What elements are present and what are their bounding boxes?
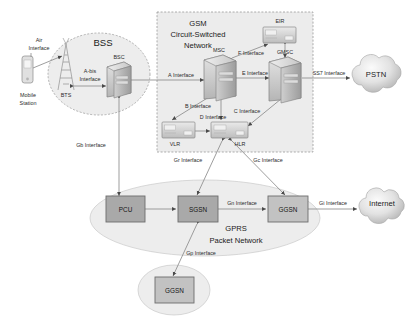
zone-label-gprs-line2: Packet Network	[188, 236, 284, 245]
interface-label-b: B Interface	[175, 103, 221, 110]
node-label-pcu: PCU	[106, 196, 145, 222]
node-label-bts: BTS	[54, 92, 78, 99]
node-label-gmsc: GMSC	[270, 49, 300, 56]
interface-label-gc: Gc Interface	[245, 157, 291, 164]
zone-label-gsm-line1: GSM	[162, 19, 234, 28]
database-box-icon	[162, 122, 195, 138]
node-label-hlr: HLR	[228, 141, 252, 148]
zone-label-gsm-line2: Circuit-Switched	[156, 30, 240, 39]
interface-label-f: F Interface	[228, 50, 274, 57]
interface-label-d: D Interface	[190, 114, 236, 121]
interface-label-gb: Gb Interface	[68, 142, 114, 149]
interface-label-gr: Gr Interface	[165, 157, 211, 164]
interface-label-gn: Gn Interface	[219, 200, 265, 207]
node-label-mobile-station-line1: Mobile	[6, 92, 50, 99]
diagram-canvas: BSS GSM Circuit-Switched Network GPRS Pa…	[0, 0, 413, 319]
interface-label-gp: Gp Interface	[178, 250, 224, 257]
node-label-internet: Internet	[358, 199, 406, 208]
node-label-ggsn: GGSN	[268, 196, 308, 222]
interface-label-air-line1: Air	[22, 37, 56, 44]
database-box-icon	[211, 122, 248, 138]
interface-label-e: E Interface	[232, 70, 278, 77]
node-label-mobile-station-line2: Station	[6, 100, 50, 107]
node-label-bsc: BSC	[108, 54, 130, 61]
node-label-ggsn-remote: GGSN	[155, 277, 194, 303]
interface-label-air-line2: Interface	[16, 45, 62, 52]
database-box-icon	[263, 27, 296, 43]
node-label-eir: EIR	[268, 18, 292, 25]
node-label-pstn: PSTN	[355, 70, 397, 79]
interface-label-gi: Gi Interface	[310, 200, 356, 207]
interface-label-abis-line2: Interface	[68, 76, 112, 83]
server-icon	[269, 57, 301, 103]
interface-label-abis-line1: A-bis	[73, 68, 107, 75]
server-icon	[204, 55, 236, 101]
mobile-phone-icon	[22, 53, 33, 83]
zone-label-gprs-line1: GPRS	[206, 224, 266, 233]
interface-label-ss7: SS7 Interface	[305, 70, 353, 77]
zone-label-bss: BSS	[83, 37, 123, 49]
node-label-vlr: VLR	[163, 141, 187, 148]
interface-label-a: A Interface	[158, 72, 204, 79]
node-label-sgsn: SGSN	[178, 196, 218, 222]
